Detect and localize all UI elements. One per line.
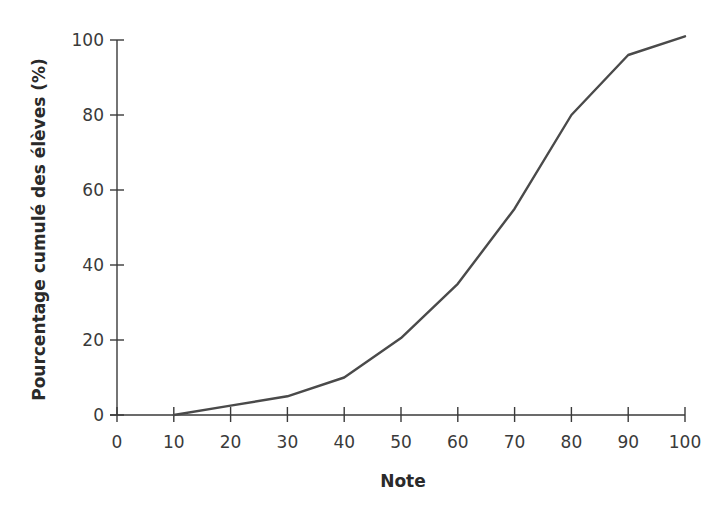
x-tick-label: 40 [333,432,355,452]
y-axis: 020406080100 [72,30,124,425]
cumulative-percentage-chart: 020406080100 0102030405060708090100 Note… [0,0,728,513]
x-tick-label: 30 [277,432,299,452]
series-layer [174,36,685,415]
y-tick-label: 100 [72,30,104,50]
x-axis-title: Note [380,471,426,491]
x-tick-label: 100 [669,432,701,452]
y-tick-label: 80 [82,105,104,125]
x-tick-label: 60 [447,432,469,452]
x-tick-label: 80 [561,432,583,452]
x-tick-label: 50 [390,432,412,452]
y-tick-label: 40 [82,255,104,275]
y-tick-label: 20 [82,330,104,350]
x-tick-label: 0 [112,432,123,452]
x-tick-label: 70 [504,432,526,452]
x-tick-label: 90 [617,432,639,452]
y-tick-label: 60 [82,180,104,200]
y-tick-label: 0 [93,405,104,425]
chart-canvas: 020406080100 0102030405060708090100 Note… [0,0,728,513]
y-axis-title: Pourcentage cumulé des élèves (%) [29,58,49,401]
x-tick-label: 10 [163,432,185,452]
x-tick-label: 20 [220,432,242,452]
x-axis: 0102030405060708090100 [110,407,701,452]
series-line [174,36,685,415]
